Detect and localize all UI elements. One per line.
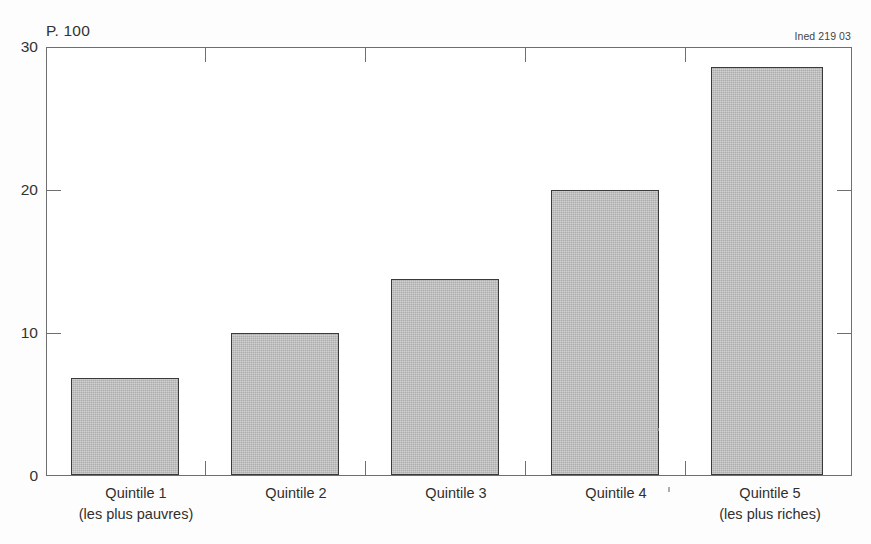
x-tick-bottom-3 [525, 461, 526, 475]
scan-speck [657, 428, 659, 431]
x-tick-top-2 [365, 48, 366, 62]
y-tick-mark-10 [47, 333, 61, 334]
category-label-main-3: Quintile 3 [425, 485, 486, 501]
bar-quintile-1[interactable] [71, 378, 179, 475]
category-sublabel-1: (les plus pauvres) [16, 504, 256, 525]
figure-container: P. 100 Ined 219 03 30 20 10 0 Quintile 1… [0, 0, 871, 544]
source-credit-label: Ined 219 03 [794, 30, 851, 42]
scan-speck-2 [668, 487, 670, 492]
y-tick-label-30: 30 [0, 38, 38, 56]
plot-area [46, 47, 852, 476]
category-sublabel-5: (les plus riches) [650, 504, 871, 525]
y-axis-unit-label: P. 100 [46, 22, 90, 40]
y-tick-label-20: 20 [0, 181, 38, 199]
y-tick-mark-right-10 [837, 333, 851, 334]
x-tick-top-1 [205, 48, 206, 62]
bar-quintile-2[interactable] [231, 333, 339, 475]
y-tick-mark-20 [47, 190, 61, 191]
x-tick-bottom-4 [685, 461, 686, 475]
bar-quintile-3[interactable] [391, 279, 499, 475]
category-label-main-1: Quintile 1 [105, 485, 166, 501]
x-tick-bottom-2 [365, 461, 366, 475]
category-label-quintile-5: Quintile 5 (les plus riches) [650, 483, 871, 525]
x-tick-top-3 [525, 48, 526, 62]
x-tick-bottom-1 [205, 461, 206, 475]
category-label-main-4: Quintile 4 [585, 485, 646, 501]
y-tick-mark-right-20 [837, 190, 851, 191]
category-label-main-5: Quintile 5 [739, 485, 800, 501]
bar-quintile-5[interactable] [711, 67, 823, 475]
bar-quintile-4[interactable] [551, 190, 659, 475]
x-tick-top-4 [685, 48, 686, 62]
y-tick-label-10: 10 [0, 324, 38, 342]
category-label-main-2: Quintile 2 [265, 485, 326, 501]
